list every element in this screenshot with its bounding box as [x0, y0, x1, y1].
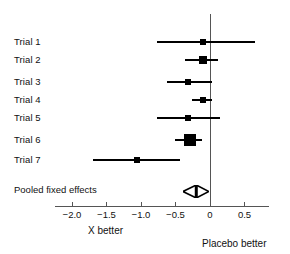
x-axis-line [55, 206, 269, 207]
axis-tick-label: 0.5 [238, 209, 251, 220]
axis-tick-mark [244, 202, 245, 206]
point-estimate-marker [134, 157, 140, 163]
study-label: Trial 4 [14, 94, 41, 105]
axis-tick-label: −1.5 [97, 209, 116, 220]
forest-plot-figure: Trial 1Trial 2Trial 3Trial 4Trial 5Trial… [0, 0, 290, 254]
study-label: Trial 3 [14, 76, 41, 87]
study-label: Trial 6 [14, 134, 41, 145]
pooled-diamond-marker [183, 184, 209, 197]
study-label: Trial 1 [14, 36, 41, 47]
point-estimate-marker [185, 115, 191, 121]
pooled-label: Pooled fixed effects [14, 184, 97, 195]
study-label: Trial 5 [14, 112, 41, 123]
study-label: Trial 2 [14, 54, 41, 65]
plot-area: Trial 1Trial 2Trial 3Trial 4Trial 5Trial… [0, 0, 290, 254]
axis-tick-label: 0 [207, 209, 212, 220]
point-estimate-marker [185, 79, 192, 86]
point-estimate-marker [200, 39, 205, 44]
axis-tick-label: −0.5 [166, 209, 185, 220]
point-estimate-marker [200, 97, 206, 103]
confidence-interval-line [157, 41, 255, 43]
axis-tick-label: −2.0 [63, 209, 82, 220]
zero-reference-line [210, 14, 211, 206]
right-axis-caption: Placebo better [202, 238, 267, 249]
axis-tick-mark [210, 202, 211, 206]
study-label: Trial 7 [14, 154, 41, 165]
point-estimate-marker [184, 134, 196, 146]
axis-tick-label: −1.0 [132, 209, 151, 220]
left-axis-caption: X better [88, 225, 123, 236]
axis-tick-mark [141, 202, 142, 206]
axis-tick-mark [106, 202, 107, 206]
point-estimate-marker [199, 56, 207, 64]
axis-tick-mark [175, 202, 176, 206]
axis-tick-mark [72, 202, 73, 206]
